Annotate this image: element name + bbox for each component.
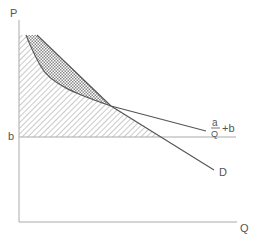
demand-diagram: P Q b a Q +b D [0,0,255,247]
b-label: b [8,130,14,142]
hyperbola-label-denominator: Q [211,129,218,139]
hyperbola-label-numerator: a [212,117,218,128]
x-axis-label: Q [240,222,249,234]
y-axis-label: P [10,7,17,19]
hyperbola-label-suffix: +b [222,122,235,134]
demand-label: D [219,166,227,178]
